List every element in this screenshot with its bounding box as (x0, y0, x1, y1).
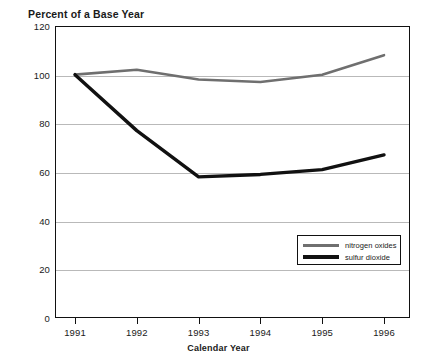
y-axis-tick-label: 20 (16, 264, 50, 275)
x-axis-tick-label: 1991 (64, 327, 86, 338)
legend-label-nitrogen-oxides: nitrogen oxides (340, 241, 397, 250)
legend-label-sulfur-dioxide: sulfur dioxide (340, 253, 390, 262)
chart-legend: nitrogen oxides sulfur dioxide (297, 235, 401, 265)
gridline (56, 76, 409, 77)
x-axis-tick (260, 318, 261, 324)
legend-item-nitrogen-oxides: nitrogen oxides (302, 239, 396, 251)
y-axis-tick-label: 0 (16, 313, 50, 324)
y-axis-tick-label: 100 (16, 69, 50, 80)
chart-figure: . Percent of a Base Year Calendar Year n… (0, 0, 437, 359)
x-axis-tick-label: 1996 (373, 327, 395, 338)
plot-area (55, 26, 410, 318)
gridline (56, 270, 409, 271)
x-axis-tick (199, 318, 200, 324)
legend-item-sulfur-dioxide: sulfur dioxide (302, 251, 396, 263)
gridline (56, 173, 409, 174)
x-axis-tick (137, 318, 138, 324)
y-axis-tick-label: 40 (16, 215, 50, 226)
legend-swatch-sulfur-dioxide (302, 255, 340, 259)
y-axis-tick-label: 120 (16, 21, 50, 32)
legend-swatch-nitrogen-oxides (302, 244, 340, 247)
x-axis-tick (384, 318, 385, 324)
y-axis-tick-label: 60 (16, 167, 50, 178)
gridline (56, 222, 409, 223)
y-axis-tick-label: 80 (16, 118, 50, 129)
x-axis-tick-label: 1994 (250, 327, 272, 338)
x-axis-tick (75, 318, 76, 324)
x-axis-tick (322, 318, 323, 324)
x-axis-title: Calendar Year (0, 343, 437, 353)
y-axis-title: Percent of a Base Year (28, 8, 144, 20)
gridline (56, 124, 409, 125)
truncated-title-fragment: . (193, 0, 207, 3)
x-axis-tick-label: 1993 (188, 327, 210, 338)
x-axis-tick-label: 1995 (311, 327, 333, 338)
x-axis-tick-label: 1992 (126, 327, 148, 338)
